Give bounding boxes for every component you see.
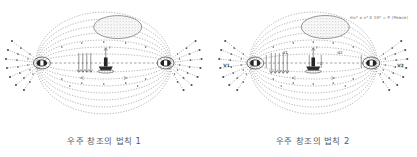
arrow-comb: [77, 53, 93, 72]
figure-2: V1 V2 d1 d2: [209, 0, 417, 157]
right-rays: [166, 40, 203, 91]
center-object: F: [98, 46, 114, 73]
cloud-blob: [301, 16, 349, 39]
figure-1-caption: 우주 창조의 법칙 1: [0, 134, 209, 146]
diagram-page: F 우주 창조의 법칙 1: [0, 0, 417, 157]
left-rays: [5, 40, 42, 91]
figure-1-drawing: F: [0, 0, 209, 128]
cloud-blob: [94, 16, 142, 39]
figure-1-canvas: F: [0, 0, 209, 128]
formula-label: mc² x v² X 10² = P (Peace): [350, 15, 408, 20]
axis-arrow-marks: [291, 77, 334, 80]
distance-right-label: d2: [337, 50, 343, 55]
center-object: F C: [305, 46, 323, 74]
force-label: F: [316, 46, 318, 50]
figure-2-caption: 우주 창조의 법칙 2: [209, 134, 417, 146]
center-label: C: [319, 61, 322, 66]
figure-1: F 우주 창조의 법칙 1: [0, 0, 209, 157]
force-label: F: [109, 46, 111, 50]
left-pole-label: V1: [223, 63, 229, 68]
right-pole-label: V2: [397, 63, 403, 68]
field-dots: [61, 41, 146, 86]
